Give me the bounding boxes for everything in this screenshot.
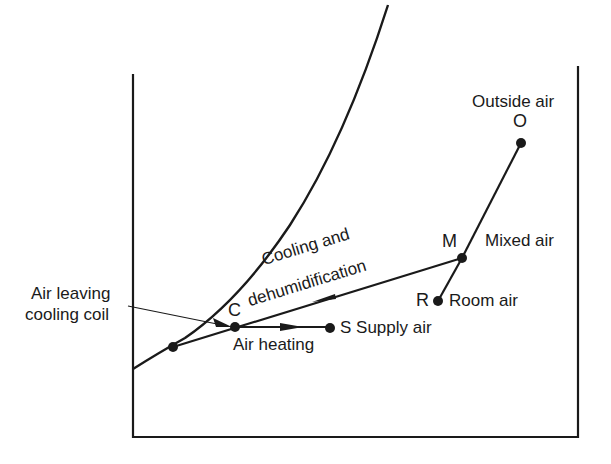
outside-air-label: Outside air <box>472 92 554 111</box>
point-s <box>325 323 335 333</box>
supply-air-label: S Supply air <box>340 318 432 337</box>
leader-line <box>128 306 222 325</box>
point-o <box>516 138 526 148</box>
room-air-label: Room air <box>449 291 518 310</box>
point-o-letter: O <box>513 111 527 131</box>
point-r <box>433 296 443 306</box>
point-m-letter: M <box>442 231 457 251</box>
point-r-letter: R <box>416 290 429 310</box>
air-leaving-coil-label-1: Air leaving <box>31 284 110 303</box>
mixed-air-label: Mixed air <box>485 231 554 250</box>
point-m <box>457 253 467 263</box>
air-heating-label: Air heating <box>233 335 314 354</box>
heating-direction-arrow <box>280 323 303 331</box>
point-adp <box>168 342 178 352</box>
air-leaving-coil-label-2: cooling coil <box>25 305 109 324</box>
point-c-letter: C <box>228 300 241 320</box>
point-c <box>230 322 240 332</box>
